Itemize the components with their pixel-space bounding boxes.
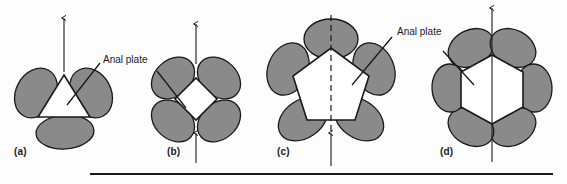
panel-d: [431, 8, 553, 162]
panel-b: [143, 24, 249, 163]
panel-label-d: (d): [440, 146, 453, 157]
callout-label-cd: Anal plate: [397, 26, 441, 37]
panel-label-c: (c): [277, 146, 290, 157]
caption-rule: [90, 173, 553, 175]
panel-label-a: (a): [14, 146, 27, 157]
callout-label-ab: Anal plate: [103, 54, 147, 65]
panel-c: [259, 15, 402, 166]
panel-label-b: (b): [167, 146, 180, 157]
panel-a: [6, 18, 121, 151]
plate: [35, 113, 95, 151]
